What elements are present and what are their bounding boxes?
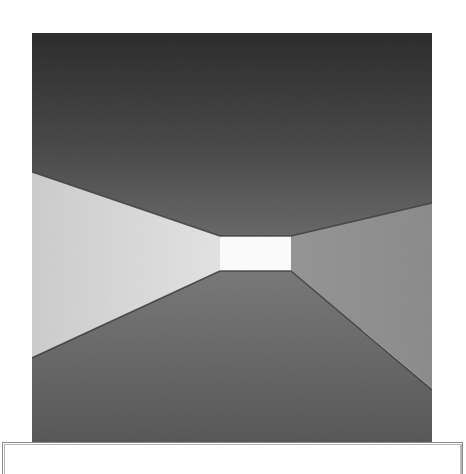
page bbox=[0, 0, 466, 474]
corridor-photo bbox=[32, 33, 432, 443]
caption-box bbox=[2, 442, 463, 474]
far-opening bbox=[220, 236, 291, 271]
